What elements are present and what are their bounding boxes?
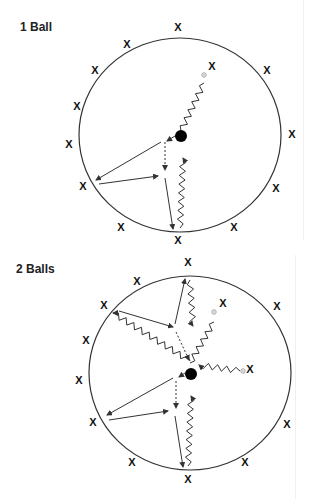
player-marker: X xyxy=(184,256,192,268)
player-marker: X xyxy=(123,38,131,50)
run-path-arrow xyxy=(176,332,189,360)
ball-icon xyxy=(185,368,197,380)
pass-arrow xyxy=(96,142,161,180)
player-marker: X xyxy=(208,60,216,72)
player-marker: X xyxy=(219,297,227,309)
player-marker: X xyxy=(174,234,182,246)
player-marker: X xyxy=(100,299,108,311)
pass-arrow xyxy=(99,176,158,184)
dribble-zigzag xyxy=(199,363,240,372)
drill-diagram: XXXXXXXXXXXXX XXXXXXXXXXXXX xyxy=(0,0,312,499)
player-marker: X xyxy=(241,456,249,468)
player-marker: X xyxy=(73,100,81,112)
player-marker: X xyxy=(283,418,291,430)
pass-arrow xyxy=(109,411,168,420)
player-marker: X xyxy=(272,182,280,194)
player-marker: X xyxy=(184,473,192,485)
pass-arrow xyxy=(179,373,185,377)
player-marker: X xyxy=(174,21,182,33)
start-marker-dot xyxy=(213,311,214,312)
panel-2-balls: XXXXXXXXXXXXX xyxy=(75,256,291,485)
player-marker: X xyxy=(246,363,254,375)
start-marker-dot xyxy=(242,370,243,371)
player-marker: X xyxy=(128,456,136,468)
player-marker: X xyxy=(273,300,281,312)
player-marker: X xyxy=(79,180,87,192)
player-marker: X xyxy=(288,128,296,140)
player-marker: X xyxy=(117,221,125,233)
player-marker: X xyxy=(82,334,90,346)
dribble-zigzag xyxy=(177,158,185,228)
start-marker-dot xyxy=(203,74,204,75)
pass-arrow xyxy=(165,178,173,229)
pass-arrow xyxy=(167,136,175,141)
ball-icon xyxy=(175,130,187,142)
player-marker: X xyxy=(230,221,238,233)
player-marker: X xyxy=(263,64,271,76)
player-marker: X xyxy=(89,416,97,428)
panel-1-ball: XXXXXXXXXXXXX xyxy=(65,21,296,246)
pass-arrow xyxy=(175,416,183,467)
dribble-zigzag xyxy=(185,396,193,466)
player-marker: X xyxy=(65,138,73,150)
dribble-zigzag xyxy=(180,83,204,131)
dribble-zigzag xyxy=(190,322,214,363)
pass-arrow xyxy=(107,378,173,415)
player-marker: X xyxy=(75,374,83,386)
player-marker: X xyxy=(91,64,99,76)
player-marker: X xyxy=(133,275,141,287)
pass-arrow xyxy=(175,279,185,324)
dribble-zigzag xyxy=(187,280,195,326)
